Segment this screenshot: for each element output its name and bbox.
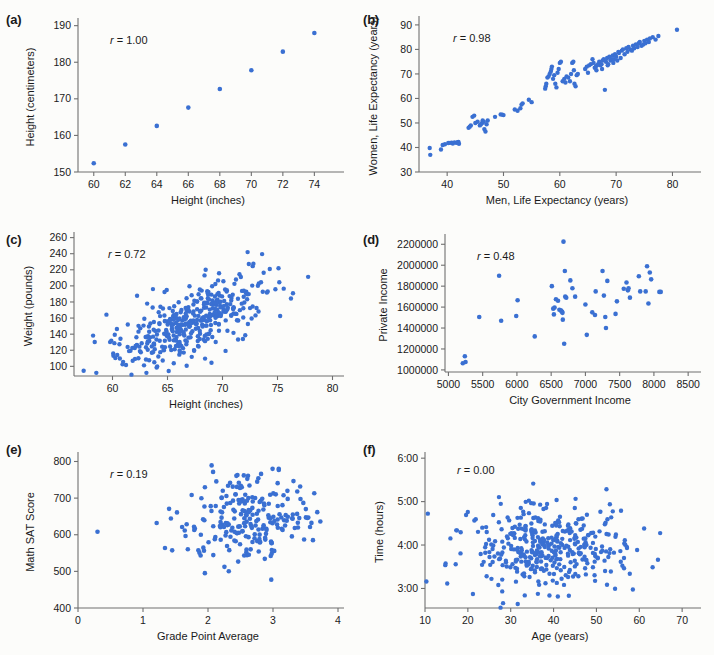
- svg-text:500: 500: [53, 565, 71, 577]
- svg-text:5000: 5000: [437, 378, 461, 390]
- svg-text:r= 0.00: r= 0.00: [457, 464, 495, 476]
- figure-grid: (a) 1501601701801906062646668707274Heigh…: [0, 0, 714, 655]
- svg-text:Grade Point Average: Grade Point Average: [157, 630, 259, 642]
- svg-text:50: 50: [400, 117, 412, 129]
- svg-text:2200000: 2200000: [397, 238, 438, 250]
- svg-text:72: 72: [277, 178, 289, 190]
- svg-text:80: 80: [400, 43, 412, 55]
- scatter-plot-b: 304050607080904050607080Men, Life Expect…: [357, 0, 714, 220]
- svg-text:64: 64: [151, 178, 163, 190]
- svg-text:20: 20: [462, 614, 474, 626]
- svg-text:3:00: 3:00: [398, 582, 419, 594]
- svg-text:30: 30: [505, 614, 517, 626]
- svg-text:Weight (pounds): Weight (pounds): [22, 266, 34, 347]
- svg-text:60: 60: [88, 178, 100, 190]
- svg-text:65: 65: [162, 382, 174, 394]
- scatter-plot-d: 1000000120000014000001600000180000020000…: [357, 220, 714, 430]
- panel-e: (e) 40050060070080001234Grade Point Aver…: [0, 430, 357, 655]
- svg-text:Time (hours): Time (hours): [373, 501, 385, 563]
- svg-text:240: 240: [49, 247, 67, 259]
- svg-text:60: 60: [554, 178, 566, 190]
- svg-text:220: 220: [49, 263, 67, 275]
- svg-text:70: 70: [245, 178, 257, 190]
- svg-text:7000: 7000: [574, 378, 598, 390]
- svg-text:Men, Life Expectancy (years): Men, Life Expectancy (years): [486, 194, 628, 206]
- svg-text:Math SAT Score: Math SAT Score: [24, 492, 36, 572]
- svg-text:6000: 6000: [505, 378, 529, 390]
- svg-text:Private Income: Private Income: [377, 268, 389, 341]
- svg-text:170: 170: [53, 92, 71, 104]
- svg-text:40: 40: [441, 178, 453, 190]
- svg-text:1400000: 1400000: [397, 322, 438, 334]
- svg-text:90: 90: [400, 19, 412, 31]
- svg-text:7500: 7500: [608, 378, 632, 390]
- svg-text:r= 1.00: r= 1.00: [110, 34, 148, 46]
- svg-text:60: 60: [633, 614, 645, 626]
- svg-text:180: 180: [49, 296, 67, 308]
- svg-text:4:00: 4:00: [398, 539, 419, 551]
- svg-text:r= 0.48: r= 0.48: [477, 250, 515, 262]
- panel-f: (f) 3:004:005:006:0010203040506070Age (y…: [357, 430, 714, 655]
- svg-text:30: 30: [400, 166, 412, 178]
- svg-text:0: 0: [75, 614, 81, 626]
- svg-text:180: 180: [53, 56, 71, 68]
- svg-text:100: 100: [49, 360, 67, 372]
- svg-text:68: 68: [214, 178, 226, 190]
- svg-text:140: 140: [49, 328, 67, 340]
- svg-text:70: 70: [676, 614, 688, 626]
- svg-text:800: 800: [53, 455, 71, 467]
- svg-text:160: 160: [49, 312, 67, 324]
- svg-text:700: 700: [53, 492, 71, 504]
- svg-text:60: 60: [400, 92, 412, 104]
- svg-text:3: 3: [270, 614, 276, 626]
- svg-text:Women, Life Expectancy (years): Women, Life Expectancy (years): [367, 17, 379, 176]
- svg-text:260: 260: [49, 231, 67, 243]
- scatter-plot-f: 3:004:005:006:0010203040506070Age (years…: [357, 430, 714, 655]
- svg-text:Height (centimeters): Height (centimeters): [24, 47, 36, 146]
- scatter-plot-e: 40050060070080001234Grade Point AverageM…: [0, 430, 357, 655]
- svg-text:6500: 6500: [539, 378, 563, 390]
- svg-text:70: 70: [400, 68, 412, 80]
- svg-text:80: 80: [327, 382, 339, 394]
- svg-text:2000000: 2000000: [397, 259, 438, 271]
- svg-text:Age (years): Age (years): [532, 630, 589, 642]
- svg-text:190: 190: [53, 19, 71, 31]
- panel-c: (c) 100120140160180200220240260606570758…: [0, 220, 357, 430]
- scatter-plot-c: 1001201401601802002202402606065707580Hei…: [0, 220, 357, 430]
- panel-d: (d) 100000012000001400000160000018000002…: [357, 220, 714, 430]
- svg-text:62: 62: [119, 178, 131, 190]
- svg-text:75: 75: [272, 382, 284, 394]
- svg-text:Height (inches): Height (inches): [169, 398, 243, 410]
- svg-text:600: 600: [53, 528, 71, 540]
- svg-text:4: 4: [335, 614, 341, 626]
- svg-text:8000: 8000: [642, 378, 666, 390]
- svg-text:40: 40: [400, 141, 412, 153]
- svg-text:r= 0.19: r= 0.19: [110, 468, 148, 480]
- svg-text:60: 60: [107, 382, 119, 394]
- svg-text:r= 0.98: r= 0.98: [453, 32, 491, 44]
- svg-text:80: 80: [667, 178, 679, 190]
- svg-text:r= 0.72: r= 0.72: [108, 248, 146, 260]
- svg-text:8500: 8500: [676, 378, 700, 390]
- panel-a: (a) 1501601701801906062646668707274Heigh…: [0, 0, 357, 220]
- svg-text:5:00: 5:00: [398, 495, 419, 507]
- svg-text:70: 70: [217, 382, 229, 394]
- svg-text:74: 74: [309, 178, 321, 190]
- svg-text:1: 1: [140, 614, 146, 626]
- svg-text:70: 70: [610, 178, 622, 190]
- svg-text:6:00: 6:00: [398, 452, 419, 464]
- svg-text:200: 200: [49, 279, 67, 291]
- svg-text:150: 150: [53, 166, 71, 178]
- svg-text:City Government Income: City Government Income: [509, 394, 631, 406]
- svg-text:50: 50: [498, 178, 510, 190]
- svg-text:66: 66: [182, 178, 194, 190]
- svg-text:1600000: 1600000: [397, 301, 438, 313]
- svg-text:120: 120: [49, 344, 67, 356]
- svg-text:1000000: 1000000: [397, 364, 438, 376]
- svg-text:2: 2: [205, 614, 211, 626]
- svg-text:5500: 5500: [471, 378, 495, 390]
- svg-text:1200000: 1200000: [397, 343, 438, 355]
- svg-text:40: 40: [548, 614, 560, 626]
- svg-text:10: 10: [419, 614, 431, 626]
- svg-text:50: 50: [591, 614, 603, 626]
